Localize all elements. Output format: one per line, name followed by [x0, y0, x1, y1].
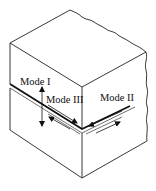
mode-3-label: Mode III [46, 94, 84, 105]
lower-bottom-right-edge [82, 141, 147, 178]
fracture-modes-diagram: Mode I Mode III Mode II [0, 0, 156, 191]
mode-2-label: Mode II [100, 92, 135, 103]
crack-upper-face [10, 84, 130, 129]
mode-1-label: Mode I [20, 76, 51, 87]
top-face-front-right-edge [82, 52, 146, 87]
mode-3-down-right-arrow-icon [48, 105, 77, 123]
right-rough-edge [145, 52, 147, 141]
top-face-back-rough-edge [70, 10, 146, 52]
lower-bottom-left-edge [10, 130, 82, 178]
top-face-left-edge [10, 10, 70, 43]
mode-2-arrows [89, 111, 122, 133]
